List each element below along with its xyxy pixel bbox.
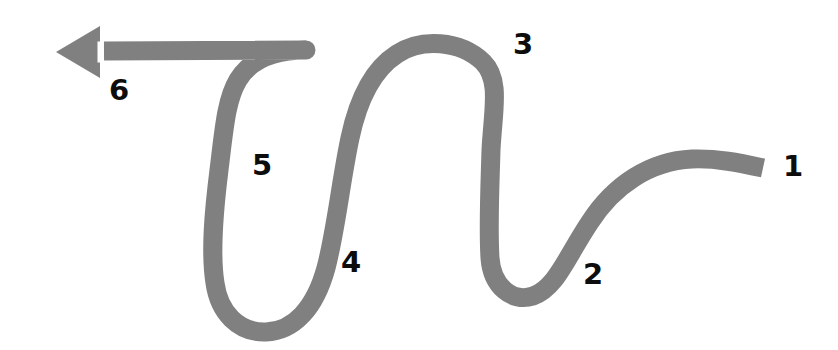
arrow-shaft-path: [104, 44, 763, 333]
step-label-6-text: 6: [109, 73, 129, 107]
serpentine-arrow-graphic: [0, 0, 838, 350]
step-label-1-text: 1: [783, 149, 803, 183]
step-label-4-text: 4: [341, 245, 361, 279]
arrow-head-triangle: [56, 26, 100, 78]
step-label-2-text: 2: [583, 257, 603, 291]
step-label-5: 5: [252, 151, 272, 180]
arrow-shaft-group: [104, 44, 763, 333]
step-label-5-text: 5: [252, 148, 272, 182]
step-label-3-text: 3: [513, 27, 533, 61]
arrow-head-gap-divider: [98, 42, 101, 63]
arrow-head-group: [56, 26, 100, 78]
diagram-canvas: 1 2 3 4 5 6: [0, 0, 838, 350]
step-label-6: 6: [109, 76, 129, 105]
step-label-2: 2: [583, 260, 603, 289]
step-label-1: 1: [783, 152, 803, 181]
step-label-3: 3: [513, 30, 533, 59]
step-label-4: 4: [341, 248, 361, 277]
